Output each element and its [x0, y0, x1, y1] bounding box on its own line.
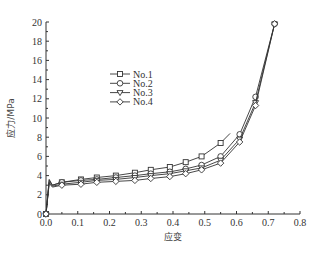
legend-item: No.4 [110, 96, 153, 107]
series-no2 [43, 21, 277, 217]
x-tick-label: 0.4 [167, 217, 180, 228]
axes: 0.00.10.20.30.40.50.60.70.80246810121416… [32, 17, 306, 229]
x-tick-label: 0.8 [294, 217, 307, 228]
series-no4 [43, 21, 278, 217]
y-tick-label: 20 [32, 17, 42, 28]
y-tick-label: 16 [32, 55, 42, 66]
y-tick-label: 6 [37, 151, 42, 162]
series-group [43, 21, 278, 217]
y-tick-label: 4 [37, 170, 42, 181]
series-no3 [43, 22, 278, 217]
y-tick-label: 10 [32, 113, 42, 124]
y-axis-title: 应力/MPa [5, 98, 16, 137]
legend: No.1No.2No.3No.4 [110, 69, 153, 108]
y-tick-label: 14 [32, 74, 42, 85]
x-tick-label: 0.1 [72, 217, 85, 228]
x-tick-label: 0.6 [230, 217, 243, 228]
x-tick-label: 0.5 [199, 217, 212, 228]
y-tick-label: 12 [32, 93, 42, 104]
y-tick-label: 0 [37, 209, 42, 220]
y-tick-label: 2 [37, 189, 42, 200]
stress-strain-chart: 0.00.10.20.30.40.50.60.70.80246810121416… [0, 0, 325, 255]
y-tick-label: 18 [32, 36, 42, 47]
y-tick-label: 8 [37, 132, 42, 143]
x-axis-title: 应变 [164, 231, 182, 242]
x-tick-label: 0.7 [262, 217, 275, 228]
x-tick-label: 0.2 [103, 217, 116, 228]
x-tick-label: 0.3 [135, 217, 148, 228]
legend-label: No.4 [133, 96, 153, 107]
